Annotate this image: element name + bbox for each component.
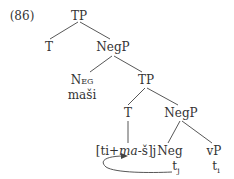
node-neg-head: Neg	[71, 74, 94, 86]
trace-i: ti	[212, 160, 219, 177]
t-content-post: -š]j	[138, 144, 157, 158]
trace-j: tj	[172, 160, 179, 177]
node-negp-low: NegP	[164, 107, 197, 119]
node-negp-top: NegP	[96, 41, 129, 53]
t-content-pre: [ti+	[96, 144, 119, 158]
t-content-ital: ma	[119, 144, 138, 158]
neg-word: maši	[68, 89, 97, 101]
node-neg-low: Neg	[157, 145, 182, 157]
node-t-mid: T	[124, 107, 132, 119]
node-vp: vP	[207, 145, 222, 157]
node-tp-root: TP	[71, 10, 87, 22]
trace-j-sub: j	[177, 166, 179, 175]
trace-i-sub: i	[217, 166, 220, 175]
node-t-top: T	[45, 41, 53, 53]
t-mid-content: [ti+ma-š]j	[96, 145, 157, 157]
node-tp-mid: TP	[138, 74, 154, 86]
example-number: (86)	[10, 10, 35, 22]
